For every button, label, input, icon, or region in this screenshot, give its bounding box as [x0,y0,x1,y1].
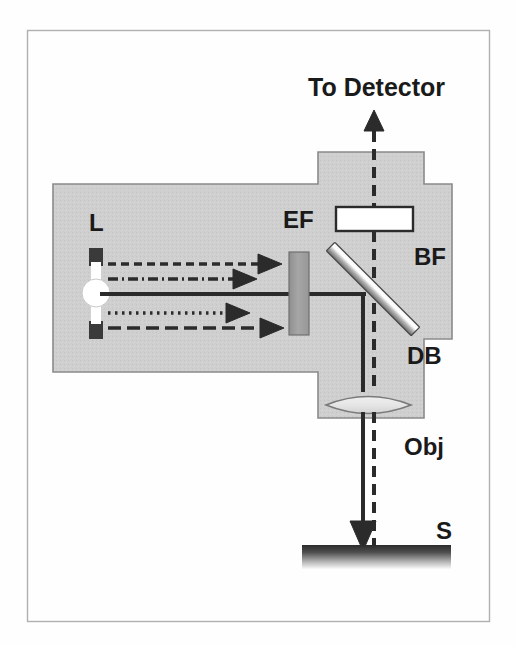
figure-root: To Detector L EF BF DB Obj S [0,0,516,646]
label-excitation-filter: EF [283,206,314,233]
optical-path-diagram: To Detector L EF BF DB Obj S [0,0,516,646]
label-lamp: L [89,209,104,236]
label-objective: Obj [404,433,444,460]
label-specimen: S [436,517,452,544]
specimen-slide [302,545,451,569]
barrier-filter [336,207,413,231]
label-dichroic: DB [407,342,442,369]
label-barrier-filter: BF [414,243,446,270]
label-to-detector: To Detector [308,73,445,101]
excitation-filter [289,252,309,335]
